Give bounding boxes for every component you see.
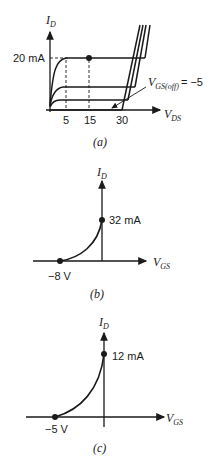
vgs-off-label: VGS(off)= −5	[148, 75, 203, 91]
caption-c: (c)	[93, 441, 106, 455]
figure-b: ID VGS 32 mA −8 V (b)	[33, 165, 170, 301]
figure-canvas: ID VDS 20 mA 5 15 30 VGS(off)= −5 (a) ID…	[0, 0, 213, 470]
y-axis-label-b: ID	[96, 165, 107, 181]
figure-a: ID VDS 20 mA 5 15 30 VGS(off)= −5 (a)	[13, 13, 203, 149]
x-tick-30: 30	[116, 114, 128, 126]
idss-label-b: 32 mA	[109, 214, 141, 226]
x-tick-15: 15	[84, 114, 96, 126]
operating-point-a	[86, 55, 92, 61]
idss-label-c: 12 mA	[112, 350, 144, 362]
x-axis-label-c: VGS	[166, 411, 183, 427]
annotation-arrow-a	[112, 87, 146, 108]
y-axis-label-a: ID	[45, 13, 56, 29]
vgsoff-point-c	[52, 414, 58, 420]
drain-curves-a	[50, 25, 150, 110]
dashed-guides-a	[50, 58, 89, 110]
transfer-curve-b	[60, 220, 102, 261]
vgsoff-point-b	[57, 258, 63, 264]
vgsoff-label-c: −5 V	[45, 423, 69, 435]
caption-b: (b)	[90, 287, 104, 301]
caption-a: (a)	[93, 135, 107, 149]
idss-point-b	[99, 217, 105, 223]
x-axis-label-b: VGS	[153, 255, 170, 271]
vgsoff-label-b: −8 V	[48, 270, 72, 282]
x-tick-5: 5	[63, 114, 69, 126]
y-axis-label-c: ID	[98, 315, 109, 331]
idss-point-c	[101, 351, 107, 357]
x-axis-label-a: VDS	[164, 107, 181, 123]
figure-c: ID VGS 12 mA −5 V (c)	[26, 315, 183, 455]
transfer-curve-c	[55, 354, 104, 417]
y-tick-20ma: 20 mA	[13, 52, 45, 64]
